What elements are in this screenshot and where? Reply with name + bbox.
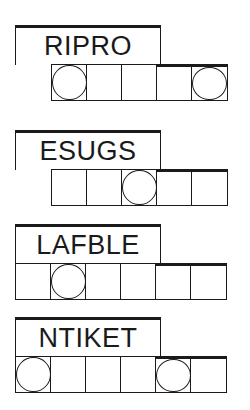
answer-cell[interactable]	[86, 64, 123, 101]
circle-marker-icon	[122, 170, 157, 205]
answer-cell[interactable]	[85, 263, 122, 300]
circle-marker-icon	[192, 67, 227, 100]
answer-cell[interactable]	[51, 64, 88, 101]
scrambled-word: NTIKET	[16, 323, 160, 353]
answer-cell[interactable]	[15, 356, 52, 393]
scrambled-word: ESUGS	[16, 136, 160, 166]
answer-cell[interactable]	[155, 263, 192, 300]
answer-cell[interactable]	[191, 64, 228, 101]
circle-marker-icon	[156, 359, 191, 392]
scrambled-word-box: ESUGS	[15, 130, 161, 170]
circle-marker-icon	[16, 357, 51, 392]
answer-cell[interactable]	[155, 356, 192, 393]
answer-cell[interactable]	[51, 169, 88, 206]
scrambled-word-box: LAFBLE	[15, 224, 161, 264]
answer-cell[interactable]	[85, 356, 122, 393]
answer-cell[interactable]	[156, 169, 193, 206]
answer-cell[interactable]	[156, 64, 193, 101]
answer-cells	[15, 263, 227, 300]
answer-cell[interactable]	[50, 263, 87, 300]
scrambled-word: LAFBLE	[16, 230, 160, 260]
answer-cell[interactable]	[190, 356, 227, 393]
answer-cell[interactable]	[120, 263, 157, 300]
scrambled-word-box: RIPRO	[15, 25, 161, 65]
answer-cell[interactable]	[86, 169, 123, 206]
answer-cell[interactable]	[191, 169, 228, 206]
answer-cell[interactable]	[50, 356, 87, 393]
answer-cells	[51, 169, 228, 206]
scrambled-word-box: NTIKET	[15, 317, 161, 357]
answer-cell[interactable]	[120, 356, 157, 393]
circle-marker-icon	[51, 264, 86, 299]
answer-cell[interactable]	[190, 263, 227, 300]
answer-cells	[15, 356, 227, 393]
answer-cell[interactable]	[121, 169, 158, 206]
answer-cells	[51, 64, 228, 101]
answer-cell[interactable]	[121, 64, 158, 101]
answer-cell[interactable]	[15, 263, 52, 300]
circle-marker-icon	[52, 65, 87, 100]
scrambled-word: RIPRO	[16, 31, 160, 61]
